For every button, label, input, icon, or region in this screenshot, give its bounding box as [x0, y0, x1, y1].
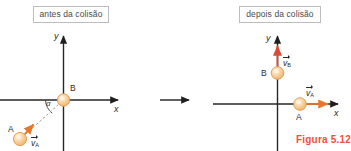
right-ball-a-label: A — [296, 112, 302, 122]
ball-a-before — [13, 132, 26, 145]
ball-a-after — [294, 98, 307, 111]
angle-label-alpha: α — [46, 99, 51, 108]
left-ball-b-label: B — [70, 83, 76, 93]
ball-b-before — [57, 94, 69, 106]
ball-b-after — [271, 67, 284, 80]
right-ball-b-label: B — [261, 68, 267, 78]
right-x-axis-label: x — [334, 108, 339, 118]
vector-overbar-icon — [283, 55, 289, 59]
left-x-axis-label: x — [114, 104, 119, 114]
left-ball-a-label: A — [8, 124, 14, 134]
right-vector-vb-label: vB — [283, 56, 291, 68]
right-vector-va-label: vA — [306, 86, 314, 98]
vector-overbar-icon — [306, 85, 312, 89]
figure-caption: Figura 5.12 — [296, 134, 351, 145]
trajectory-dashed-line — [26, 104, 59, 134]
right-y-axis-label: y — [266, 33, 271, 43]
vector-overbar-icon — [31, 135, 37, 139]
panel-title-before: antes da colisão — [33, 6, 109, 23]
left-y-axis-label: y — [54, 31, 59, 41]
panel-title-after: depois da colisão — [239, 6, 321, 23]
left-vector-va-label: vA — [31, 136, 39, 148]
